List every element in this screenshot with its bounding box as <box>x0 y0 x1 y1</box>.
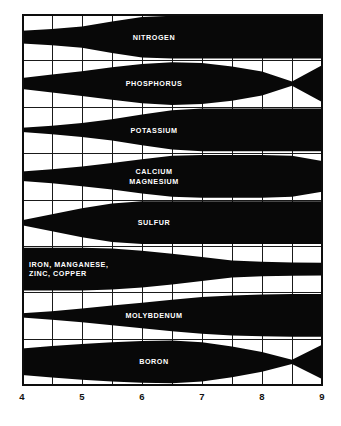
x-axis-tick-label: 5 <box>79 391 85 402</box>
nutrient-band <box>22 201 322 244</box>
nutrient-band <box>22 340 322 383</box>
nutrient-availability-chart: NITROGENPHOSPHORUSPOTASSIUMCALCIUMMAGNES… <box>0 0 341 426</box>
x-axis-tick-label: 9 <box>319 391 324 402</box>
band-label: MAGNESIUM <box>129 177 179 186</box>
x-axis-tick-label: 6 <box>139 391 144 402</box>
x-axis-tick-label: 7 <box>199 391 204 402</box>
chart-plot-area: NITROGENPHOSPHORUSPOTASSIUMCALCIUMMAGNES… <box>0 0 341 426</box>
band-label: POTASSIUM <box>130 126 177 135</box>
x-axis-tick-label: 8 <box>259 391 264 402</box>
band-label: NITROGEN <box>133 33 175 42</box>
band-label: SULFUR <box>138 218 171 227</box>
band-label: PHOSPHORUS <box>126 79 183 88</box>
x-axis-tick-labels: 456789 <box>19 391 324 402</box>
band-label: CALCIUM <box>136 167 173 176</box>
x-axis-tick-label: 4 <box>19 391 25 402</box>
band-label: ZINC, COPPER <box>29 269 87 278</box>
band-label: MOLYBDENUM <box>125 311 182 320</box>
band-label: BORON <box>139 357 169 366</box>
band-label: IRON, MANGANESE, <box>29 260 108 269</box>
